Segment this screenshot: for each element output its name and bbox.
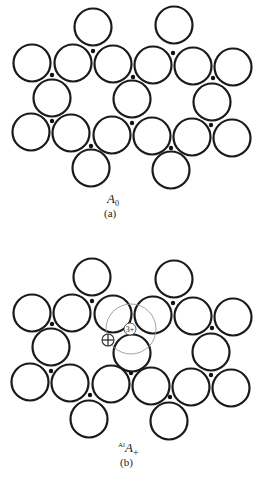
interstitial-site-dot	[169, 146, 173, 150]
atom-circle	[54, 295, 91, 332]
atom-circle	[75, 9, 112, 46]
atom-circle	[55, 45, 92, 82]
interstitial-site-dot	[131, 75, 135, 79]
atom-circle	[71, 401, 108, 438]
atom-circle	[156, 261, 193, 298]
interstitial-site-dot	[129, 371, 133, 375]
atom-circle	[151, 403, 188, 440]
atom-circle	[193, 334, 230, 371]
interstitial-site-dot	[91, 49, 95, 53]
atom-circle	[215, 299, 252, 336]
atom-circle	[74, 259, 111, 296]
atom-circle	[133, 368, 170, 405]
panel-b-lattice: 3+	[12, 259, 252, 440]
atom-circle	[14, 295, 51, 332]
atom-circle	[114, 335, 151, 372]
atom-circle	[13, 114, 50, 151]
interstitial-site-dot	[50, 119, 54, 123]
atom-circle	[93, 366, 130, 403]
atom-circle	[214, 120, 251, 157]
panel-a-lattice	[13, 7, 252, 189]
atom-circle	[73, 150, 110, 187]
ion-charge-label: 3+	[126, 325, 135, 334]
atom-circle	[215, 49, 252, 86]
atom-circle	[33, 329, 70, 366]
interstitial-site-dot	[49, 369, 53, 373]
panel-a-label: (a)	[104, 207, 117, 220]
interstitial-site-dot	[50, 73, 54, 77]
interstitial-site-dot	[209, 123, 213, 127]
interstitial-site-dot	[88, 393, 92, 397]
atom-circle	[14, 45, 51, 82]
atom-circle	[12, 364, 49, 401]
interstitial-site-dot	[171, 301, 175, 305]
interstitial-site-dot	[50, 322, 54, 326]
atom-circle	[175, 298, 212, 335]
interstitial-site-dot	[209, 373, 213, 377]
atom-circle	[135, 297, 172, 334]
interstitial-site-dot	[90, 299, 94, 303]
atom-circle	[174, 119, 211, 156]
atom-circle	[53, 115, 90, 152]
atom-circle	[153, 152, 190, 189]
atom-circle	[173, 369, 210, 406]
atom-circle	[156, 7, 193, 44]
interstitial-site-dot	[168, 395, 172, 399]
atom-circle	[135, 47, 172, 84]
atom-circle	[175, 48, 212, 85]
interstitial-site-dot	[171, 51, 175, 55]
panel-b-label: (b)	[120, 456, 133, 469]
atom-circle	[52, 365, 89, 402]
panel-a-symbol: A0	[106, 191, 119, 208]
atom-circle	[213, 370, 250, 407]
diagram-canvas: 3+ A0 (a) AlA+ (b)	[0, 0, 258, 480]
interstitial-site-dot	[211, 76, 215, 80]
atom-circle	[95, 46, 132, 83]
interstitial-site-dot	[89, 144, 93, 148]
atom-circle	[114, 81, 151, 118]
interstitial-site-dot	[210, 326, 214, 330]
atom-circle	[194, 84, 231, 121]
interstitial-site-dot	[130, 121, 134, 125]
atom-circle	[134, 118, 171, 155]
atom-circle	[34, 80, 71, 117]
atom-circle	[94, 117, 131, 154]
